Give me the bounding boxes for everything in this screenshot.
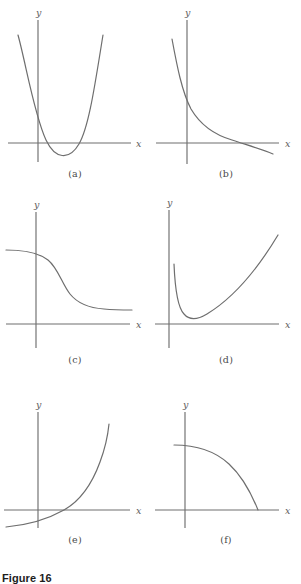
x-axis-label-b: x xyxy=(285,138,291,149)
panel-e: y x (e) xyxy=(0,388,150,578)
panel-caption-c: (c) xyxy=(0,354,150,365)
x-axis-label-e: x xyxy=(136,505,142,516)
panel-f-plot: y x xyxy=(151,388,301,556)
curve-c xyxy=(6,250,132,310)
y-axis-label-c: y xyxy=(33,199,40,210)
panel-d-plot: y x xyxy=(151,196,301,364)
curve-a xyxy=(18,35,103,156)
panel-c-plot: y x xyxy=(0,196,150,364)
panel-f: y x (f) xyxy=(151,388,301,578)
y-axis-label-e: y xyxy=(35,399,42,410)
panel-b: y x (b) xyxy=(151,4,301,194)
curve-d xyxy=(174,235,278,319)
panel-caption-b: (b) xyxy=(151,168,301,179)
y-axis-label-a: y xyxy=(35,7,42,18)
y-axis-label-d: y xyxy=(166,197,173,208)
panel-e-plot: y x xyxy=(0,388,150,556)
x-axis-label-d: x xyxy=(285,319,291,330)
x-axis-label-f: x xyxy=(285,505,291,516)
panel-c: y x (c) xyxy=(0,196,150,386)
panel-caption-d: (d) xyxy=(151,354,301,365)
panel-d: y x (d) xyxy=(151,196,301,386)
panel-a: y x (a) xyxy=(0,4,150,194)
panel-caption-a: (a) xyxy=(0,168,150,179)
figure-sheet: y x (a) y x (b) y x (c) y xyxy=(0,0,301,584)
curve-f xyxy=(174,445,258,510)
figure-caption: Figure 16 xyxy=(2,572,52,584)
y-axis-label-f: y xyxy=(182,399,189,410)
panel-a-plot: y x xyxy=(0,4,150,172)
panel-caption-e: (e) xyxy=(0,534,150,545)
panel-caption-f: (f) xyxy=(151,534,301,545)
panel-b-plot: y x xyxy=(151,4,301,172)
x-axis-label-c: x xyxy=(136,319,142,330)
y-axis-label-b: y xyxy=(184,7,191,18)
x-axis-label-a: x xyxy=(136,138,142,149)
curve-e xyxy=(6,424,109,527)
